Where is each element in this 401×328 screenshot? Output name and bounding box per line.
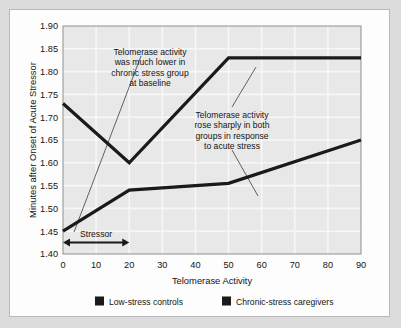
y-tick-label: 1.50 — [40, 204, 58, 214]
x-tick-label: 0 — [60, 260, 65, 270]
y-tick-label: 1.90 — [40, 21, 58, 31]
y-tick-label: 1.80 — [40, 67, 58, 77]
annotation-line: Telomerase activity — [195, 110, 269, 120]
x-tick-label: 20 — [124, 260, 134, 270]
y-tick-label: 1.85 — [40, 44, 58, 54]
legend-swatch — [222, 297, 231, 306]
y-tick-label: 1.70 — [40, 113, 58, 123]
x-axis-title: Telomerase Activity — [172, 275, 253, 286]
x-tick-label: 10 — [91, 260, 101, 270]
x-tick-label: 90 — [356, 260, 366, 270]
y-tick-label: 1.55 — [40, 181, 58, 191]
x-tick-label: 60 — [257, 260, 267, 270]
y-tick-label: 1.65 — [40, 135, 58, 145]
y-tick-label: 1.75 — [40, 90, 58, 100]
annotation-acute-stress: Telomerase activityrose sharply in bothg… — [195, 110, 270, 151]
x-tick-label: 80 — [323, 260, 333, 270]
x-tick-label: 50 — [223, 260, 233, 270]
annotation-line: chronic stress group — [111, 68, 189, 78]
legend-swatch — [95, 297, 104, 306]
x-axis-tick-labels: 0102030405060708090 — [60, 260, 366, 270]
x-tick-label: 70 — [290, 260, 300, 270]
x-tick-label: 30 — [157, 260, 167, 270]
annotation-line: rose sharply in both — [195, 120, 270, 130]
figure-card: 1.401.451.501.551.601.651.701.751.801.85… — [9, 9, 390, 317]
legend-label: Low-stress controls — [109, 297, 183, 307]
y-tick-label: 1.40 — [40, 249, 58, 259]
annotation-line: was much lower in — [114, 57, 186, 67]
annotation-line: Telomerase activity — [113, 47, 187, 57]
y-tick-label: 1.60 — [40, 158, 58, 168]
chart-figure: 1.401.451.501.551.601.651.701.751.801.85… — [10, 10, 391, 318]
y-axis-tick-labels: 1.401.451.501.551.601.651.701.751.801.85… — [40, 21, 58, 259]
annotation-line: at baseline — [129, 78, 171, 88]
legend-label: Chronic-stress caregivers — [236, 297, 333, 307]
y-axis-title: Minutes after Onset of Acute Stressor — [27, 62, 38, 218]
x-tick-label: 40 — [190, 260, 200, 270]
chart-legend: Low-stress controlsChronic-stress caregi… — [95, 297, 333, 308]
stressor-label: Stressor — [80, 229, 112, 239]
y-tick-label: 1.45 — [40, 227, 58, 237]
annotation-line: groups in response — [195, 131, 268, 141]
annotation-line: to acute stress — [204, 141, 260, 151]
